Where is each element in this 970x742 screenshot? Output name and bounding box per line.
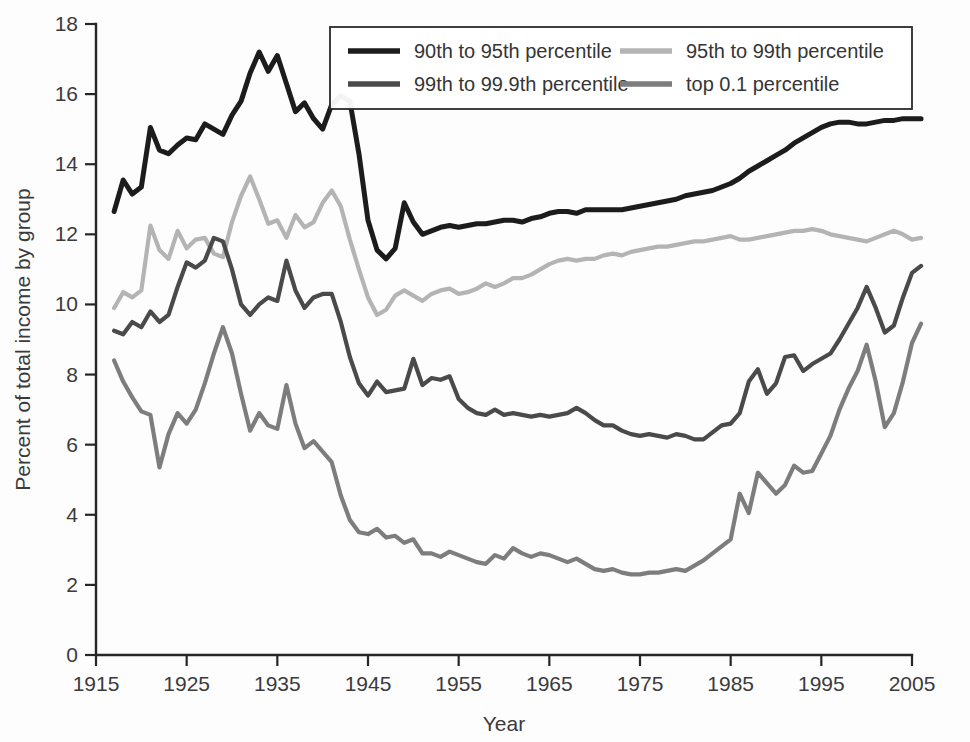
x-tick-label: 1945 [345,672,392,695]
x-tick-label: 1955 [435,672,482,695]
x-tick-label: 2005 [889,672,936,695]
x-tick-label: 1985 [707,672,754,695]
y-tick-label: 8 [66,363,78,386]
line-chart: 024681012141618 191519251935194519551965… [0,0,970,742]
x-tick-label: 1975 [617,672,664,695]
y-tick-label: 18 [55,12,78,35]
legend-label: 95th to 99th percentile [686,40,884,62]
legend-label: 90th to 95th percentile [414,40,612,62]
legend-label: 99th to 99.9th percentile [414,73,629,95]
series-line-2 [114,238,921,440]
y-axis-ticks: 024681012141618 [55,12,96,666]
legend-label: top 0.1 percentile [686,73,839,95]
y-tick-label: 2 [66,573,78,596]
x-axis-title: Year [483,712,525,735]
x-tick-label: 1965 [526,672,573,695]
y-tick-label: 4 [66,503,78,526]
y-tick-label: 16 [55,82,78,105]
y-tick-label: 0 [66,643,78,666]
y-axis-title: Percent of total income by group [11,188,34,490]
x-tick-label: 1935 [254,672,301,695]
series-lines [114,52,921,574]
x-tick-label: 1915 [73,672,120,695]
chart-container: 024681012141618 191519251935194519551965… [0,0,970,742]
y-tick-label: 10 [55,292,78,315]
x-tick-label: 1995 [798,672,845,695]
series-line-1 [114,176,921,314]
y-tick-label: 12 [55,222,78,245]
y-tick-label: 6 [66,433,78,456]
x-tick-label: 1925 [163,672,210,695]
y-tick-label: 14 [55,152,79,175]
x-axis-ticks: 1915192519351945195519651975198519952005 [73,655,936,695]
chart-legend: 90th to 95th percentile95th to 99th perc… [330,27,912,109]
